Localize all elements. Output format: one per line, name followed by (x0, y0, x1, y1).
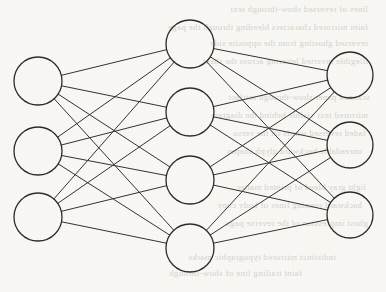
connection-edge (210, 157, 330, 235)
neuron-node-h4[interactable] (166, 224, 214, 272)
connection-edge (214, 49, 328, 71)
nodes-group (14, 20, 373, 272)
connection-edge (54, 62, 174, 199)
neuron-node-o1[interactable] (327, 52, 373, 98)
neural-network-diagram: lines of reversed show-through textfaint… (0, 0, 386, 292)
connection-edge (61, 118, 167, 145)
connection-edge (58, 58, 171, 137)
connection-edge (214, 220, 328, 244)
connection-edge (206, 92, 334, 230)
neuron-node-h3[interactable] (166, 156, 214, 204)
connection-edge (210, 88, 331, 167)
connections-group (54, 49, 335, 244)
connection-edge (62, 222, 167, 243)
neuron-node-i3[interactable] (14, 193, 62, 241)
neuron-node-o2[interactable] (327, 122, 373, 168)
connection-edge (213, 185, 327, 210)
neuron-node-i2[interactable] (14, 127, 62, 175)
neuron-node-h1[interactable] (166, 20, 214, 68)
connection-edge (210, 125, 330, 203)
neuron-node-i1[interactable] (14, 57, 62, 105)
connection-edge (213, 80, 327, 106)
connection-edge (206, 62, 334, 199)
neural-network-canvas (0, 0, 386, 292)
connection-edge (58, 126, 171, 204)
neuron-node-h2[interactable] (166, 88, 214, 136)
neuron-node-o3[interactable] (327, 192, 373, 238)
